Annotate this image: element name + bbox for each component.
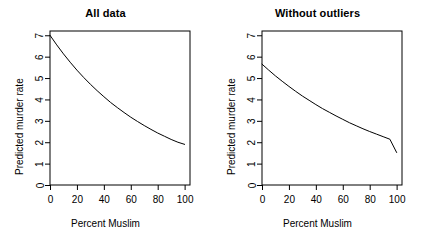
y-tick-label: 0 xyxy=(247,182,258,188)
x-axis-label-all-data: Percent Muslim xyxy=(0,218,211,229)
data-line xyxy=(50,35,185,144)
x-tick-label: 80 xyxy=(153,194,165,205)
x-tick-label: 20 xyxy=(284,194,296,205)
y-tick-label: 3 xyxy=(247,118,258,124)
figure-panel-pair: All data 01234567020406080100 Predicted … xyxy=(0,0,423,250)
x-tick-label: 40 xyxy=(311,194,323,205)
plot-area-without-outliers: 01234567020406080100 xyxy=(212,0,423,250)
y-tick-label: 0 xyxy=(35,182,46,188)
x-tick-label: 100 xyxy=(177,194,194,205)
y-tick-label: 4 xyxy=(35,97,46,103)
data-line xyxy=(262,64,397,152)
y-tick-label: 3 xyxy=(35,118,46,124)
x-tick-label: 60 xyxy=(126,194,138,205)
x-tick-label: 0 xyxy=(260,194,266,205)
y-tick-label: 7 xyxy=(35,33,46,39)
y-tick-label: 6 xyxy=(35,54,46,60)
x-tick-label: 40 xyxy=(99,194,111,205)
panel-without-outliers: Without outliers 01234567020406080100 Pr… xyxy=(212,0,423,250)
x-tick-label: 100 xyxy=(389,194,406,205)
x-tick-label: 20 xyxy=(72,194,84,205)
y-tick-label: 2 xyxy=(35,140,46,146)
y-tick-label: 5 xyxy=(35,75,46,81)
plot-box xyxy=(262,31,402,185)
y-tick-label: 4 xyxy=(247,97,258,103)
y-axis-label-without-outliers: Predicted murder rate xyxy=(226,78,237,175)
plot-box xyxy=(50,31,190,185)
y-axis-label-all-data: Predicted murder rate xyxy=(14,78,25,175)
y-tick-label: 6 xyxy=(247,54,258,60)
x-tick-label: 60 xyxy=(338,194,350,205)
x-axis-label-without-outliers: Percent Muslim xyxy=(212,218,423,229)
y-tick-label: 7 xyxy=(247,33,258,39)
x-tick-label: 0 xyxy=(48,194,54,205)
y-tick-label: 1 xyxy=(35,161,46,167)
y-tick-label: 5 xyxy=(247,75,258,81)
y-tick-label: 1 xyxy=(247,161,258,167)
x-tick-label: 80 xyxy=(365,194,377,205)
y-tick-label: 2 xyxy=(247,140,258,146)
plot-area-all-data: 01234567020406080100 xyxy=(0,0,211,250)
panel-all-data: All data 01234567020406080100 Predicted … xyxy=(0,0,211,250)
